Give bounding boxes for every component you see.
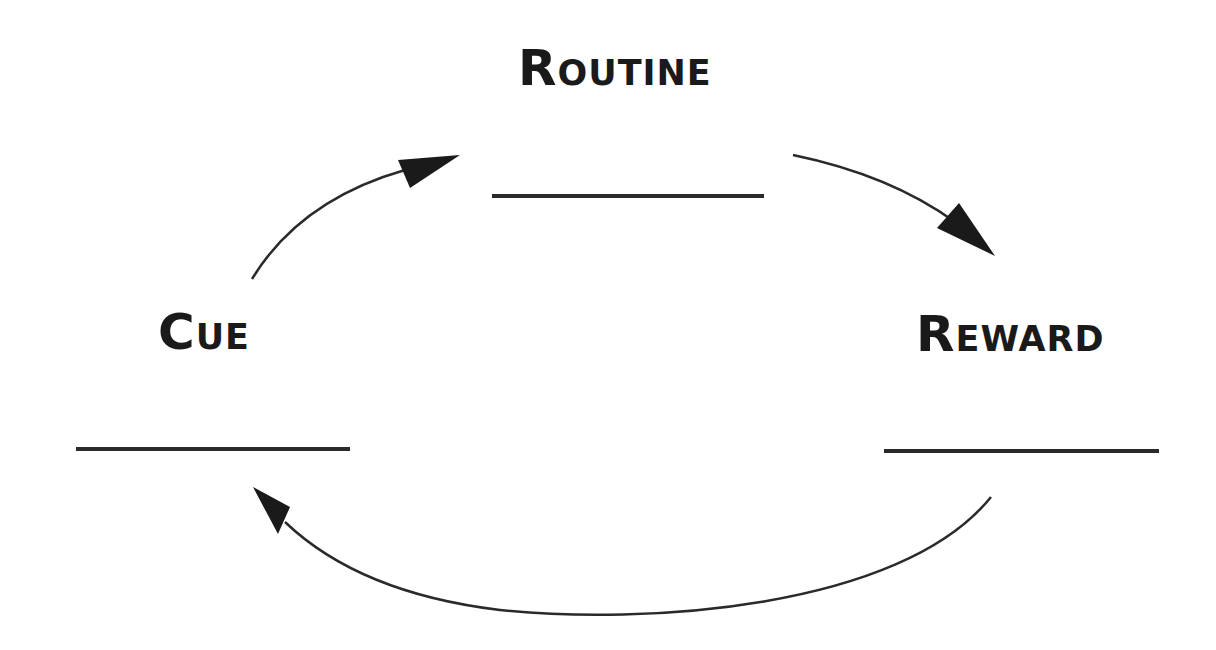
arrow-reward-to-cue <box>253 487 991 615</box>
habit-loop-diagram: Routine Cue Reward <box>0 0 1216 650</box>
node-label-cue: Cue <box>158 307 250 357</box>
cue-blank-line <box>76 447 350 451</box>
cue-text: Cue <box>158 303 250 361</box>
arrowhead-icon <box>253 487 290 534</box>
arrow-cue-to-routine <box>252 155 460 279</box>
arrow-routine-to-reward <box>793 155 995 256</box>
reward-blank-line <box>884 449 1159 453</box>
arrowhead-icon <box>398 155 460 188</box>
routine-text: Routine <box>518 39 712 97</box>
node-label-routine: Routine <box>518 43 712 93</box>
arrowhead-icon <box>937 203 995 256</box>
reward-text: Reward <box>916 305 1105 363</box>
routine-blank-line <box>492 194 764 198</box>
node-label-reward: Reward <box>916 309 1105 359</box>
